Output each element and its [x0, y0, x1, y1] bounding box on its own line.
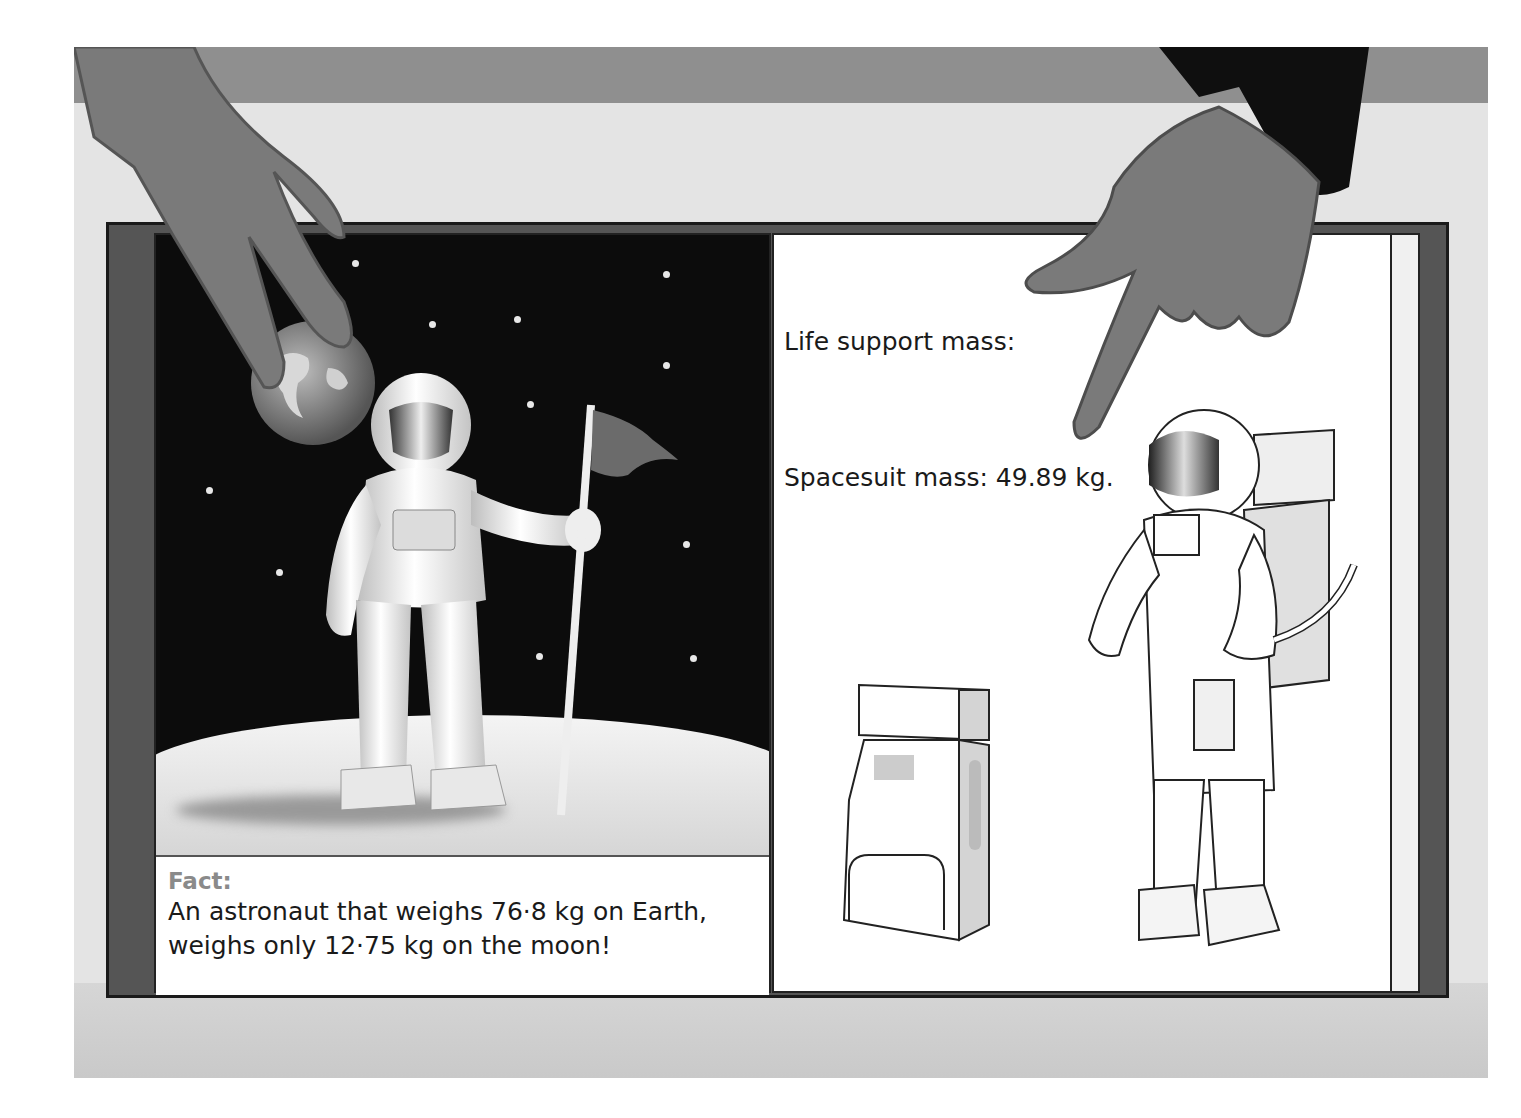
star-icon: [429, 321, 436, 328]
star-icon: [683, 541, 690, 548]
star-icon: [663, 271, 670, 278]
star-icon: [514, 316, 521, 323]
right-hand: [979, 47, 1399, 447]
star-icon: [276, 569, 283, 576]
fact-line-2: weighs only 12·75 kg on the moon!: [168, 929, 757, 963]
star-icon: [206, 487, 213, 494]
star-icon: [663, 362, 670, 369]
flag-icon: [541, 400, 681, 820]
book-scene: Fact: An astronaut that weighs 76·8 kg o…: [74, 47, 1488, 1078]
spacesuit-astronaut-illustration: [1054, 410, 1384, 955]
fact-label: Fact:: [168, 867, 757, 895]
fact-line-1: An astronaut that weighs 76·8 kg on Eart…: [168, 895, 757, 929]
fact-box: Fact: An astronaut that weighs 76·8 kg o…: [156, 855, 769, 995]
star-icon: [690, 655, 697, 662]
life-support-unit-illustration: [829, 675, 1009, 945]
left-hand: [74, 47, 394, 477]
